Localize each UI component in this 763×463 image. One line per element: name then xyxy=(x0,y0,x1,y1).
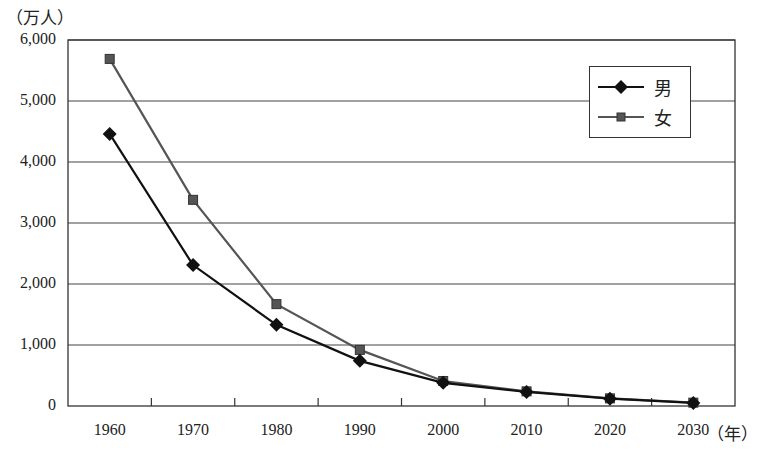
square-marker-icon xyxy=(355,345,364,354)
y-tick-label: 3,000 xyxy=(0,213,56,231)
legend-label-male: 男 xyxy=(654,74,672,100)
legend-label-female: 女 xyxy=(654,104,672,130)
x-tick-label: 1970 xyxy=(163,421,223,439)
y-tick-label: 5,000 xyxy=(0,91,56,109)
x-tick-label: 1960 xyxy=(80,421,140,439)
x-tick-label: 2000 xyxy=(413,421,473,439)
diamond-marker-icon xyxy=(103,127,117,141)
y-tick-label: 1,000 xyxy=(0,335,56,353)
y-tick-label: 4,000 xyxy=(0,152,56,170)
y-tick-label: 0 xyxy=(0,396,56,414)
diamond-marker-icon xyxy=(269,318,283,332)
diamond-marker-icon xyxy=(613,79,629,95)
x-tick-label: 2030 xyxy=(663,421,723,439)
y-tick-label: 6,000 xyxy=(0,30,56,48)
y-tick-label: 2,000 xyxy=(0,274,56,292)
x-tick-label: 2010 xyxy=(497,421,557,439)
square-marker-icon xyxy=(105,54,114,63)
legend-item-male: 男 xyxy=(598,76,688,98)
legend: 男 女 xyxy=(589,66,691,138)
square-marker-icon xyxy=(189,195,198,204)
square-marker-icon xyxy=(272,300,281,309)
series-line-male xyxy=(110,134,694,403)
x-tick-label: 1980 xyxy=(246,421,306,439)
diamond-marker-icon xyxy=(186,258,200,272)
y-axis-unit-label: （万人） xyxy=(6,4,74,29)
square-marker-icon xyxy=(616,112,626,122)
diamond-marker-icon xyxy=(353,354,367,368)
legend-item-female: 女 xyxy=(598,106,688,128)
x-tick-label: 2020 xyxy=(580,421,640,439)
x-tick-label: 1990 xyxy=(330,421,390,439)
